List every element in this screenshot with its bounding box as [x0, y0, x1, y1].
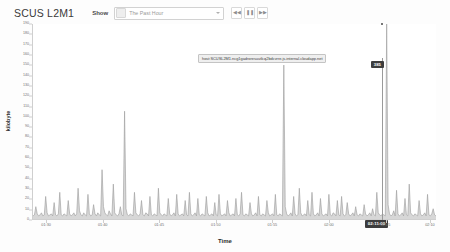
cursor-line: [382, 58, 383, 220]
x-tick-mark: [329, 220, 330, 223]
time-range-value: The Past Hour: [129, 10, 163, 16]
x-axis: 01:3001:4001:4501:5001:5502:0002:0502:10: [32, 220, 436, 232]
x-tick-label: 02:00: [324, 224, 334, 228]
x-tick-mark: [103, 220, 104, 223]
x-tick-label: 02:05: [381, 224, 391, 228]
x-tick-label: 01:30: [41, 224, 51, 228]
step-forward-button[interactable]: ▶▶: [257, 7, 268, 19]
x-tick-mark: [386, 220, 387, 223]
page-title: SCUS L2M1: [14, 7, 74, 19]
chevron-down-icon: [216, 12, 220, 14]
y-axis-title: kilobyte: [5, 96, 11, 146]
x-axis-title: Time: [0, 238, 450, 244]
chart-toolbar: SCUS L2M1 Show The Past Hour ◀◀ ❚❚ ▶▶: [0, 0, 450, 26]
value-badge: 385: [371, 61, 384, 68]
x-tick-label: 01:55: [268, 224, 278, 228]
calendar-icon: [116, 8, 126, 18]
time-range-select[interactable]: The Past Hour: [114, 7, 224, 20]
metrics-chart-panel: SCUS L2M1 Show The Past Hour ◀◀ ❚❚ ▶▶ 01…: [0, 0, 450, 252]
x-tick-mark: [216, 220, 217, 223]
x-tick-label: 02:10: [425, 224, 435, 228]
x-tick-label: 01:50: [211, 224, 221, 228]
x-tick-mark: [272, 220, 273, 223]
highlighted-point-marker: [381, 23, 383, 25]
x-tick-label: 01:45: [154, 224, 164, 228]
x-tick-mark: [159, 220, 160, 223]
x-tick-label: 01:40: [98, 224, 108, 228]
series-tooltip: host:SCUSL2M1.ncg1gadroresuutlcq2bdcvrre…: [198, 54, 326, 63]
playback-button-group: ◀◀ ❚❚ ▶▶: [231, 7, 268, 19]
x-tick-mark: [46, 220, 47, 223]
pause-button[interactable]: ❚❚: [244, 7, 255, 19]
show-label: Show: [92, 10, 108, 16]
x-tick-mark: [430, 220, 431, 223]
step-back-button[interactable]: ◀◀: [231, 7, 242, 19]
